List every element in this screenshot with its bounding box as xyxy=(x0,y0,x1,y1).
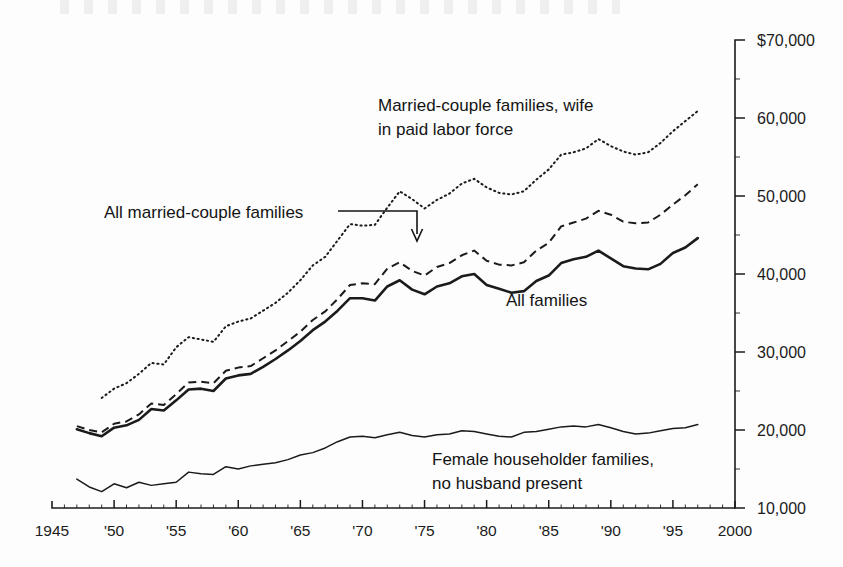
income-chart-figure: 1945'50'55'60'65'70'75'80'85'90'952000 $… xyxy=(0,0,843,567)
x-tick-1970: '70 xyxy=(352,522,373,539)
y-tick-40000: 40,000 xyxy=(757,266,806,283)
x-tick-1950: '50 xyxy=(104,522,125,539)
x-tick-1945: 1945 xyxy=(35,522,69,539)
y-tick-50000: 50,000 xyxy=(757,188,806,205)
y-tick-70000: $70,000 xyxy=(757,32,815,49)
y-axis-tick-labels: $70,00060,00050,00040,00030,00020,00010,… xyxy=(757,32,815,517)
series-line-2 xyxy=(77,238,698,436)
annotation-female-householder-line-2: no husband present xyxy=(432,474,583,493)
y-tick-10000: 10,000 xyxy=(757,500,806,517)
x-tick-1955: '55 xyxy=(166,522,186,539)
x-tick-1985: '85 xyxy=(539,522,559,539)
annotation-married-wife-line-2: in paid labor force xyxy=(378,120,513,139)
annotation-all-married-couple: All married-couple families xyxy=(104,203,303,222)
series-line-0 xyxy=(102,111,698,398)
annotation-married-wife-line-1: Married-couple families, wife xyxy=(378,96,593,115)
x-tick-1960: '60 xyxy=(228,522,249,539)
x-tick-1965: '65 xyxy=(290,522,310,539)
x-axis-tick-labels: 1945'50'55'60'65'70'75'80'85'90'952000 xyxy=(35,522,753,539)
x-tick-1990: '90 xyxy=(601,522,622,539)
annotation-all-families: All families xyxy=(506,291,587,310)
chart-canvas: 1945'50'55'60'65'70'75'80'85'90'952000 $… xyxy=(0,0,843,567)
y-tick-20000: 20,000 xyxy=(757,422,806,439)
annotation-female-householder-line-1: Female householder families, xyxy=(432,450,654,469)
data-series-group xyxy=(77,111,698,492)
x-tick-1995: '95 xyxy=(663,522,683,539)
x-tick-1975: '75 xyxy=(414,522,434,539)
leader-line-all-married-couple xyxy=(338,211,423,241)
x-tick-1980: '80 xyxy=(477,522,498,539)
y-tick-60000: 60,000 xyxy=(757,110,806,127)
y-tick-30000: 30,000 xyxy=(757,344,806,361)
x-tick-2000: 2000 xyxy=(718,522,753,539)
